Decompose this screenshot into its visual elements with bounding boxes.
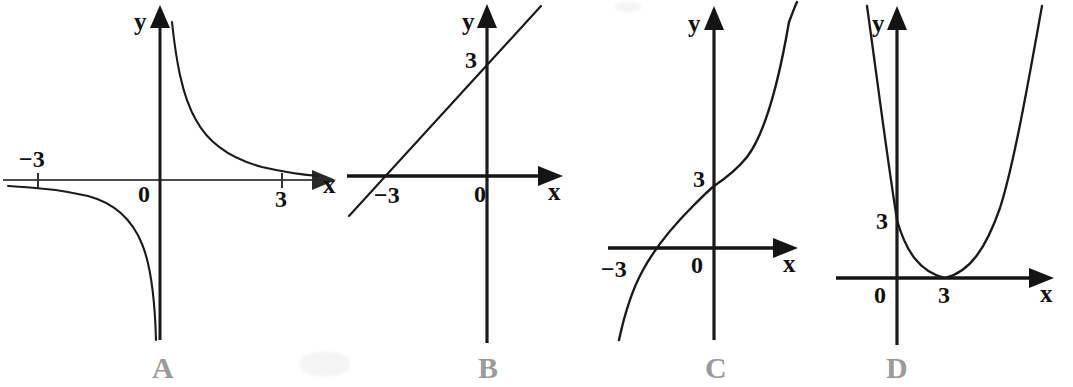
graph-panel-b: y x 0 −3 3 B bbox=[345, 0, 583, 387]
y-axis-label: y bbox=[872, 10, 885, 37]
tick-label-vertex: 3 bbox=[938, 282, 950, 308]
tick-label-3: 3 bbox=[275, 186, 287, 212]
y-axis-arrow-icon bbox=[477, 4, 497, 28]
curve-parabola bbox=[867, 6, 1042, 278]
curve-cubic bbox=[619, 2, 797, 340]
figure-root: y x 0 −3 3 A y x 0 −3 3 B bbox=[0, 0, 1073, 387]
tick-label-y-intercept: 3 bbox=[465, 47, 477, 73]
y-axis-label: y bbox=[462, 8, 475, 35]
x-axis-label: x bbox=[1040, 280, 1053, 307]
curve-hyperbola-branch-right bbox=[172, 22, 318, 176]
graph-panel-a: y x 0 −3 3 A bbox=[0, 0, 345, 387]
panel-letter-c: C bbox=[705, 351, 727, 384]
curve-hyperbola-branch-left bbox=[8, 186, 156, 340]
origin-label: 0 bbox=[138, 181, 150, 207]
tick-label-minus3: −3 bbox=[19, 146, 45, 172]
panel-letter-b: B bbox=[478, 351, 499, 384]
origin-label: 0 bbox=[691, 252, 703, 278]
y-axis-label: y bbox=[134, 8, 147, 35]
tick-label-y-intercept: 3 bbox=[693, 166, 705, 192]
x-axis-label: x bbox=[783, 250, 796, 277]
graph-panel-c: y x 0 −3 3 C bbox=[583, 0, 828, 387]
graph-panel-d: y x 0 3 3 D bbox=[828, 0, 1073, 387]
tick-label-x-intercept: −3 bbox=[374, 182, 400, 208]
x-axis-label: x bbox=[548, 178, 561, 205]
panel-letter-a: A bbox=[152, 351, 174, 384]
tick-label-x-intercept: −3 bbox=[601, 256, 627, 282]
panel-letter-d: D bbox=[886, 351, 908, 384]
x-axis-label: x bbox=[323, 171, 336, 198]
y-axis-arrow-icon bbox=[887, 6, 907, 30]
y-axis-arrow-icon bbox=[704, 6, 724, 30]
origin-label: 0 bbox=[474, 181, 486, 207]
y-axis-arrow-icon bbox=[150, 5, 170, 28]
tick-label-y-intercept: 3 bbox=[876, 208, 888, 234]
y-axis-label: y bbox=[688, 10, 701, 37]
origin-label: 0 bbox=[874, 282, 886, 308]
